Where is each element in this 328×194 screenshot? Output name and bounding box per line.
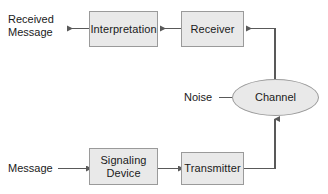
node-receiver[interactable]: Receiver [181,11,244,47]
edge-transmitter-to-channel [244,119,275,169]
edge-channel-to-receiver [246,29,275,80]
node-interpretation[interactable]: Interpretation [89,11,158,47]
node-channel[interactable]: Channel [232,79,319,116]
label-message: Message [8,162,53,175]
node-signaling-device[interactable]: Signaling Device [89,148,158,185]
label-received-message: Received Message [8,13,54,39]
node-transmitter[interactable]: Transmitter [181,152,244,185]
diagram-canvas: Received Message Noise Message Interpret… [0,0,328,194]
label-noise: Noise [184,91,212,104]
